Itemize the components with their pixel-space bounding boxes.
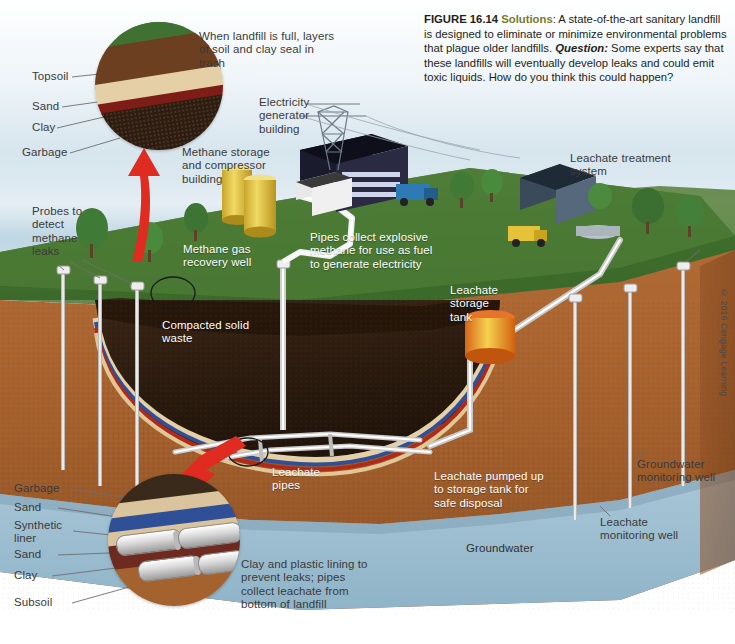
annotation-methane-well: Methane gas recovery well bbox=[183, 243, 269, 270]
annotation-leachate-treatment: Leachate treatment system bbox=[570, 152, 680, 179]
annotation-methane-probes: Probes to detect methane leaks bbox=[32, 205, 92, 259]
figure-container: FIGURE 16.14 Solutions: A state-of-the-a… bbox=[0, 0, 735, 644]
annotation-groundwater: Groundwater bbox=[466, 542, 534, 555]
annotation-leachate-well: Leachate monitoring well bbox=[600, 516, 680, 543]
label-clay-bottom: Clay bbox=[14, 569, 37, 582]
bottom-inset-liner-detail bbox=[108, 474, 240, 606]
annotation-methane-storage: Methane storage and compressor building bbox=[182, 146, 292, 186]
label-sand-upper: Sand bbox=[14, 501, 41, 514]
annotation-landfill-full: When landfill is full, layers of soil an… bbox=[199, 30, 339, 70]
label-sand-top: Sand bbox=[32, 100, 59, 113]
label-garbage-bottom: Garbage bbox=[14, 482, 59, 495]
annotation-groundwater-well: Groundwater monitoring well bbox=[637, 458, 727, 485]
label-clay-top: Clay bbox=[32, 121, 55, 134]
annotation-leachate-tank: Leachate storage tank bbox=[450, 284, 512, 324]
label-synthetic-liner: Synthetic liner bbox=[14, 519, 74, 546]
copyright-notice: © 2016 Cengage Learning bbox=[719, 288, 729, 396]
annotation-pipes-collect-methane: Pipes collect explosive methane for use … bbox=[310, 231, 434, 271]
annotation-leachate-pumped: Leachate pumped up to storage tank for s… bbox=[434, 470, 554, 510]
label-topsoil: Topsoil bbox=[32, 70, 69, 83]
annotation-leachate-pipes: Leachate pipes bbox=[272, 466, 342, 493]
annotation-compacted-waste: Compacted solid waste bbox=[162, 319, 254, 346]
label-sand-lower: Sand bbox=[14, 548, 41, 561]
label-garbage-top: Garbage bbox=[22, 146, 67, 159]
label-subsoil: Subsoil bbox=[14, 596, 52, 609]
annotation-electricity-building: Electricity generator building bbox=[259, 96, 329, 136]
annotation-clay-plastic-lining: Clay and plastic lining to prevent leaks… bbox=[241, 558, 381, 612]
